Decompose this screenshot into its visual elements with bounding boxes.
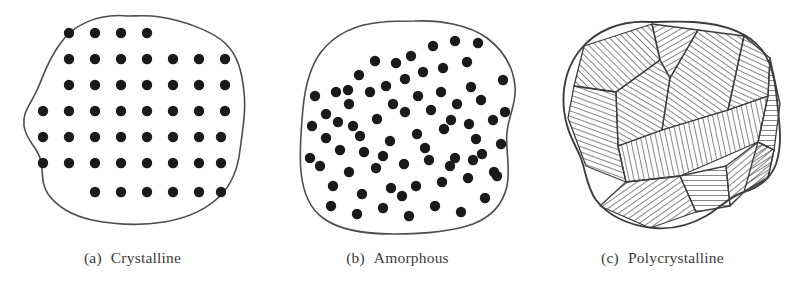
atom-dot bbox=[168, 187, 178, 197]
atom-dot bbox=[412, 129, 422, 139]
atom-dot bbox=[391, 58, 401, 68]
atom-dot bbox=[220, 80, 230, 90]
atom-dot bbox=[168, 80, 178, 90]
atom-dot bbox=[477, 149, 487, 159]
atom-dot bbox=[413, 91, 423, 101]
atom-dot bbox=[488, 115, 498, 125]
atom-dot bbox=[436, 87, 446, 97]
atom-dot bbox=[370, 56, 380, 66]
atom-dot bbox=[116, 106, 126, 116]
grain-group bbox=[568, 24, 780, 228]
atom-dot bbox=[194, 187, 204, 197]
atom-dot bbox=[38, 106, 48, 116]
atom-dot bbox=[468, 155, 478, 165]
atom-dot bbox=[333, 117, 343, 127]
atom-dot bbox=[116, 28, 126, 38]
crystalline-atom-lattice bbox=[38, 28, 230, 197]
atom-dot bbox=[168, 158, 178, 168]
atom-dot bbox=[220, 106, 230, 116]
atom-dot bbox=[400, 74, 410, 84]
atom-dot bbox=[400, 107, 410, 117]
atom-dot bbox=[452, 99, 462, 109]
atom-dot bbox=[90, 106, 100, 116]
caption-index-c: (c) bbox=[601, 249, 619, 266]
atom-dot bbox=[439, 124, 449, 134]
atom-dot bbox=[335, 145, 345, 155]
atom-dot bbox=[331, 87, 341, 97]
atom-dot bbox=[220, 54, 230, 64]
caption-amorphous: (b)Amorphous bbox=[265, 248, 530, 268]
atom-dot bbox=[142, 80, 152, 90]
atom-dot bbox=[471, 134, 481, 144]
atom-dot bbox=[168, 54, 178, 64]
atom-dot bbox=[64, 132, 74, 142]
atom-dot bbox=[355, 131, 365, 141]
atom-dot bbox=[437, 177, 447, 187]
atom-dot bbox=[142, 158, 152, 168]
atom-dot bbox=[354, 70, 364, 80]
caption-index-b: (b) bbox=[346, 249, 365, 266]
atom-dot bbox=[116, 158, 126, 168]
atom-dot bbox=[116, 80, 126, 90]
atom-dot bbox=[381, 81, 391, 91]
atom-dot bbox=[321, 109, 331, 119]
atom-dot bbox=[310, 91, 320, 101]
materials-structure-figure: (a)Crystalline (b)Amorphous (c)Polycryst… bbox=[0, 0, 795, 299]
atom-dot bbox=[38, 132, 48, 142]
atom-dot bbox=[428, 41, 438, 51]
atom-dot bbox=[378, 203, 388, 213]
atom-dot bbox=[194, 54, 204, 64]
caption-label-c: Polycrystalline bbox=[628, 249, 724, 266]
atom-dot bbox=[411, 181, 421, 191]
atom-dot bbox=[307, 121, 317, 131]
atom-dot bbox=[473, 38, 483, 48]
atom-dot bbox=[305, 153, 315, 163]
atom-dot bbox=[116, 132, 126, 142]
atom-dot bbox=[194, 106, 204, 116]
atom-dot bbox=[450, 36, 460, 46]
atom-dot bbox=[406, 51, 416, 61]
atom-dot bbox=[90, 28, 100, 38]
atom-dot bbox=[385, 136, 395, 146]
atom-dot bbox=[399, 159, 409, 169]
atom-dot bbox=[352, 209, 362, 219]
crystalline-boundary-outline bbox=[24, 16, 245, 225]
crystalline-diagram bbox=[0, 0, 265, 245]
atom-dot bbox=[500, 107, 510, 117]
atom-dot bbox=[445, 161, 455, 171]
amorphous-diagram bbox=[265, 0, 530, 245]
atom-dot bbox=[216, 187, 226, 197]
atom-dot bbox=[90, 158, 100, 168]
atom-dot bbox=[344, 99, 354, 109]
atom-dot bbox=[90, 54, 100, 64]
atom-dot bbox=[438, 63, 448, 73]
caption-label-a: Crystalline bbox=[111, 249, 181, 266]
atom-dot bbox=[116, 187, 126, 197]
atom-dot bbox=[420, 143, 430, 153]
atom-dot bbox=[194, 158, 204, 168]
atom-dot bbox=[142, 187, 152, 197]
atom-dot bbox=[64, 158, 74, 168]
atom-dot bbox=[426, 105, 436, 115]
atom-dot bbox=[357, 189, 367, 199]
atom-dot bbox=[365, 87, 375, 97]
atom-dot bbox=[142, 106, 152, 116]
atom-dot bbox=[404, 211, 414, 221]
atom-dot bbox=[386, 183, 396, 193]
atom-dot bbox=[194, 132, 204, 142]
atom-dot bbox=[378, 151, 388, 161]
atom-dot bbox=[326, 201, 336, 211]
atom-dot bbox=[216, 158, 226, 168]
atom-dot bbox=[116, 54, 126, 64]
atom-dot bbox=[90, 187, 100, 197]
atom-dot bbox=[418, 67, 428, 77]
atom-dot bbox=[64, 80, 74, 90]
atom-dot bbox=[64, 28, 74, 38]
atom-dot bbox=[216, 132, 226, 142]
amorphous-atom-cloud bbox=[305, 36, 510, 221]
atom-dot bbox=[348, 121, 358, 131]
atom-dot bbox=[168, 106, 178, 116]
atom-dot bbox=[388, 99, 398, 109]
panel-polycrystalline: (c)Polycrystalline bbox=[530, 0, 795, 299]
atom-dot bbox=[344, 167, 354, 177]
